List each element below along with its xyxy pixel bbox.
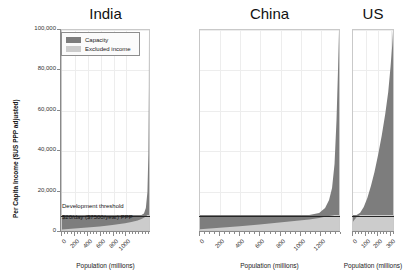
x-tick-mark — [100, 232, 101, 236]
chart-figure: Per Capita Income ($US PPP adjusted) 020… — [0, 0, 416, 279]
chart-legend: Capacity Excluded income — [61, 32, 140, 56]
x-tick-mark-minor — [244, 232, 245, 234]
x-tick-mark-minor — [355, 232, 356, 234]
x-tick-mark-minor — [249, 232, 250, 234]
x-tick-mark-minor — [310, 232, 311, 234]
threshold-line-china — [199, 216, 340, 217]
x-tick-mark — [239, 232, 240, 236]
panel-title-us: US — [352, 5, 394, 22]
y-tick-label: 20,000 — [10, 187, 56, 193]
legend-swatch-capacity — [66, 37, 81, 43]
x-tick-mark-minor — [116, 232, 117, 234]
x-tick-mark-minor — [335, 232, 336, 234]
x-tick-mark-minor — [77, 232, 78, 234]
y-tick-label: 100,000 — [10, 25, 56, 31]
x-tick-mark-minor — [374, 232, 375, 234]
x-tick-mark — [377, 232, 378, 236]
legend-item-capacity: Capacity — [66, 36, 135, 44]
x-tick-mark-minor — [305, 232, 306, 234]
x-tick-mark-minor — [295, 232, 296, 234]
legend-label-excluded-income: Excluded income — [85, 45, 131, 53]
y-axis-label: Per Capita Income ($US PPP adjusted) — [12, 99, 19, 218]
plot-area-india — [61, 29, 150, 231]
x-tick-mark-minor — [383, 232, 384, 234]
x-tick-mark-minor — [64, 232, 65, 234]
legend-swatch-excluded-income — [66, 46, 81, 52]
x-tick-mark-minor — [234, 232, 235, 234]
x-tick-mark-minor — [142, 232, 143, 234]
x-tick-mark — [113, 232, 114, 236]
x-tick-mark-minor — [358, 232, 359, 234]
plot-area-us — [352, 29, 394, 231]
x-tick-mark-minor — [138, 232, 139, 234]
x-tick-mark-minor — [386, 232, 387, 234]
series-area-us — [353, 30, 393, 230]
x-tick-mark — [125, 232, 126, 236]
x-tick-mark-minor — [330, 232, 331, 234]
x-tick-mark-minor — [209, 232, 210, 234]
x-tick-mark-minor — [109, 232, 110, 234]
plot-area-china — [199, 29, 340, 231]
x-tick-label: 400 — [224, 238, 245, 259]
x-tick-mark-minor — [264, 232, 265, 234]
x-tick-mark-minor — [214, 232, 215, 234]
x-tick-mark-minor — [145, 232, 146, 234]
x-tick-mark-minor — [96, 232, 97, 234]
x-tick-mark-minor — [119, 232, 120, 234]
x-tick-mark-minor — [103, 232, 104, 234]
threshold-line-us — [352, 216, 394, 217]
x-tick-label: 1200 — [305, 238, 326, 259]
x-tick-mark-minor — [270, 232, 271, 234]
x-tick-label: 600 — [244, 238, 265, 259]
x-tick-mark-minor — [315, 232, 316, 234]
x-tick-mark-minor — [80, 232, 81, 234]
x-tick-mark-minor — [361, 232, 362, 234]
x-tick-mark — [61, 232, 62, 236]
series-capacity — [62, 30, 149, 230]
x-tick-mark-minor — [325, 232, 326, 234]
series-area-india — [62, 30, 149, 230]
x-tick-label: 800 — [265, 238, 286, 259]
legend-label-capacity: Capacity — [85, 36, 108, 44]
series-capacity — [200, 30, 339, 230]
x-tick-mark — [352, 232, 353, 236]
x-tick-mark-minor — [371, 232, 372, 234]
x-tick-mark — [300, 232, 301, 236]
x-tick-mark — [259, 232, 260, 236]
threshold-label-line2: $20/day ($7500/year) PPP — [62, 214, 133, 220]
x-tick-mark-minor — [148, 232, 149, 234]
legend-item-excluded-income: Excluded income — [66, 45, 135, 53]
x-tick-mark — [280, 232, 281, 236]
y-tick-label: 60,000 — [10, 106, 56, 112]
threshold-label-line1: Development threshold — [62, 203, 124, 209]
x-tick-mark-minor — [204, 232, 205, 234]
x-tick-mark-minor — [132, 232, 133, 234]
x-tick-mark-minor — [380, 232, 381, 234]
x-tick-mark-minor — [122, 232, 123, 234]
x-tick-mark-minor — [275, 232, 276, 234]
x-tick-mark-minor — [93, 232, 94, 234]
x-tick-mark-minor — [84, 232, 85, 234]
panel-title-india: India — [61, 5, 150, 22]
x-tick-mark-minor — [71, 232, 72, 234]
x-tick-mark-minor — [90, 232, 91, 234]
y-tick-label: 80,000 — [10, 65, 56, 71]
x-tick-mark-minor — [129, 232, 130, 234]
x-tick-mark-minor — [368, 232, 369, 234]
x-tick-mark — [74, 232, 75, 236]
x-tick-label: 1000 — [285, 238, 306, 259]
x-tick-mark-minor — [254, 232, 255, 234]
series-capacity — [353, 30, 393, 230]
y-tick-label: 40,000 — [10, 146, 56, 152]
x-tick-mark-minor — [135, 232, 136, 234]
x-tick-mark-minor — [67, 232, 68, 234]
x-tick-mark-minor — [285, 232, 286, 234]
x-tick-mark-minor — [106, 232, 107, 234]
x-tick-label: 200 — [204, 238, 225, 259]
x-tick-mark-minor — [229, 232, 230, 234]
x-tick-mark — [87, 232, 88, 236]
series-area-china — [200, 30, 339, 230]
x-tick-mark-minor — [224, 232, 225, 234]
x-tick-mark — [320, 232, 321, 236]
panel-title-china: China — [199, 5, 340, 22]
